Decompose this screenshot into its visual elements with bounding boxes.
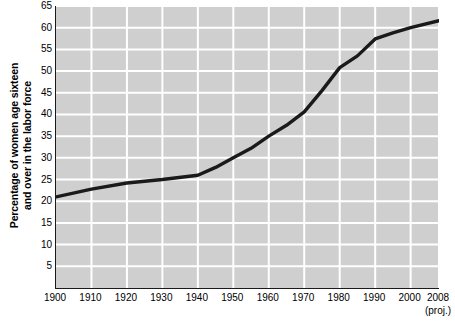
x-axis-tick-labels: 1900191019201930194019501960197019801990…	[0, 292, 455, 308]
series-line-labor-force	[56, 21, 439, 197]
y-axis-tick-label: 55	[26, 44, 52, 54]
horizontal-gridlines	[56, 6, 439, 266]
y-axis-tick-label: 60	[26, 23, 52, 33]
y-axis-tick-label: 45	[26, 88, 52, 98]
y-axis-tick-label: 15	[26, 218, 52, 228]
x-axis-tick-label: 1990	[363, 292, 385, 304]
x-axis-tick-label: 1960	[257, 292, 279, 304]
x-axis-tick-label: 1940	[186, 292, 208, 304]
y-axis-tick-label: 35	[26, 131, 52, 141]
y-axis-tick-label: 65	[26, 1, 52, 11]
x-axis-tick-label: 2000	[399, 292, 421, 304]
plot-area	[55, 6, 439, 289]
y-axis-tick-label: 25	[26, 175, 52, 185]
y-axis-tick-label: 20	[26, 196, 52, 206]
y-axis-title-line1: Percentage of women age sixteen	[9, 62, 21, 228]
y-axis-tick-label: 30	[26, 153, 52, 163]
y-axis-tick-label: 50	[26, 66, 52, 76]
y-axis-tick-labels: 5101520253035404550556065	[26, 0, 52, 292]
x-axis-tick-label: 1980	[328, 292, 350, 304]
plot-canvas	[56, 6, 439, 288]
x-axis-tick-label: 1920	[115, 292, 137, 304]
x-axis-tick-label: 1930	[150, 292, 172, 304]
y-axis-tick-label: 10	[26, 240, 52, 250]
x-axis-tick-label: 2008	[427, 292, 449, 304]
x-axis-tick-label: 1900	[44, 292, 66, 304]
x-axis-projection-note: (proj.)	[425, 305, 451, 317]
x-axis-tick-label: 1910	[79, 292, 101, 304]
x-axis-tick-label: 1950	[221, 292, 243, 304]
vertical-gridlines	[91, 6, 439, 288]
labor-force-line-chart: Percentage of women age sixteen and over…	[0, 0, 455, 332]
x-axis-tick-label: 1970	[292, 292, 314, 304]
y-axis-tick-label: 40	[26, 109, 52, 119]
y-axis-tick-label: 5	[26, 261, 52, 271]
